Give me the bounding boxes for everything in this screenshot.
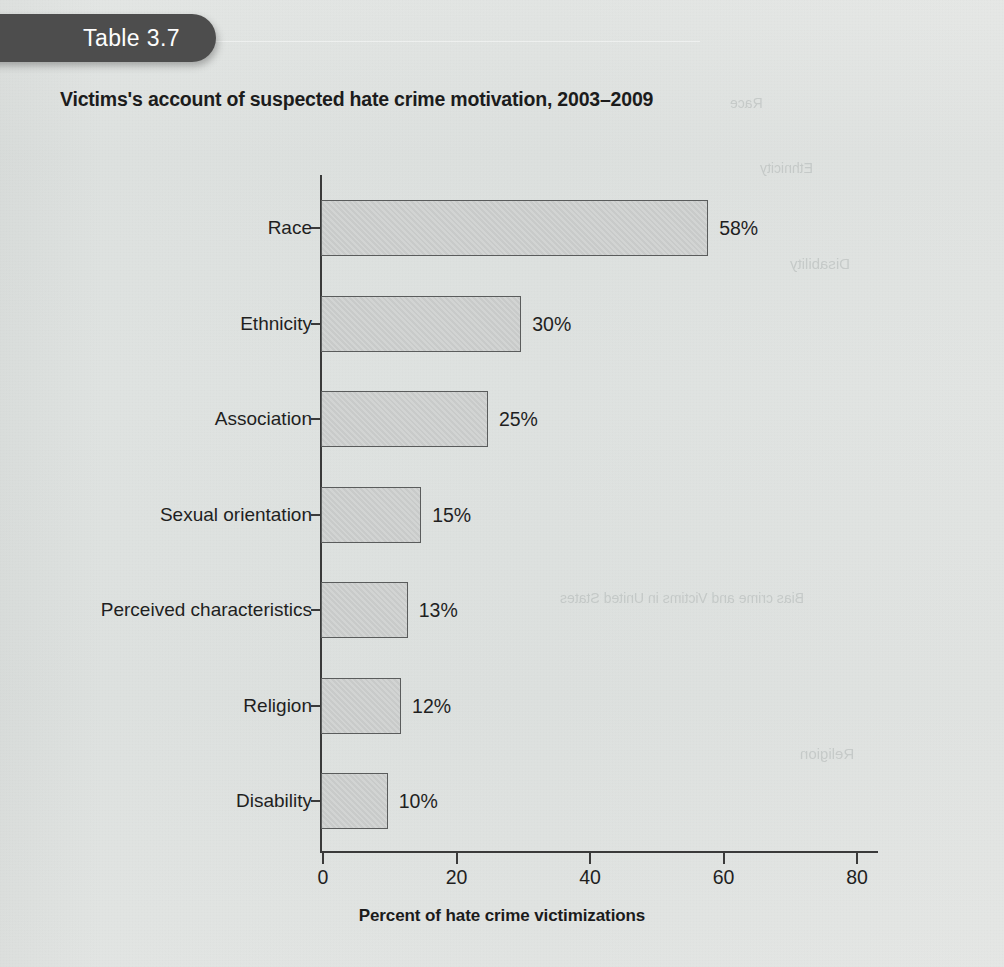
category-label: Ethnicity — [12, 313, 312, 335]
category-label: Race — [12, 217, 312, 239]
x-axis-tick — [322, 853, 324, 864]
bar-value-label: 10% — [399, 790, 438, 813]
category-label: Association — [12, 408, 312, 430]
x-axis-tick — [456, 853, 458, 864]
x-axis-tick-label: 0 — [318, 866, 329, 889]
bar — [321, 582, 408, 638]
x-axis-tick — [856, 853, 858, 864]
y-axis-tick — [311, 323, 320, 325]
bar-value-label: 58% — [719, 217, 758, 240]
bar — [321, 391, 488, 447]
x-axis-tick-label: 20 — [446, 866, 468, 889]
bar — [321, 773, 388, 829]
category-label: Religion — [12, 695, 312, 717]
x-axis-line — [320, 851, 878, 853]
bar-chart-plot: Race58%Ethnicity30%Association25%Sexual … — [0, 0, 1004, 967]
category-label: Perceived characteristics — [12, 599, 312, 621]
y-axis-tick — [311, 705, 320, 707]
bar — [321, 296, 521, 352]
x-axis-tick-label: 40 — [579, 866, 601, 889]
bar-value-label: 30% — [532, 312, 571, 335]
y-axis-tick — [311, 609, 320, 611]
category-label: Sexual orientation — [12, 504, 312, 526]
x-axis-title: Percent of hate crime victimizations — [0, 906, 1004, 926]
y-axis-tick — [311, 418, 320, 420]
x-axis-tick-label: 60 — [713, 866, 735, 889]
x-axis-tick — [723, 853, 725, 864]
y-axis-tick — [311, 514, 320, 516]
category-label: Disability — [12, 790, 312, 812]
x-axis-tick — [589, 853, 591, 864]
bar — [321, 678, 401, 734]
y-axis-tick — [311, 800, 320, 802]
bar-value-label: 25% — [499, 408, 538, 431]
bar-value-label: 15% — [432, 503, 471, 526]
x-axis-tick-label: 80 — [846, 866, 868, 889]
bar-value-label: 13% — [419, 599, 458, 622]
bar — [321, 200, 708, 256]
bar — [321, 487, 421, 543]
y-axis-tick — [311, 227, 320, 229]
bar-value-label: 12% — [412, 694, 451, 717]
